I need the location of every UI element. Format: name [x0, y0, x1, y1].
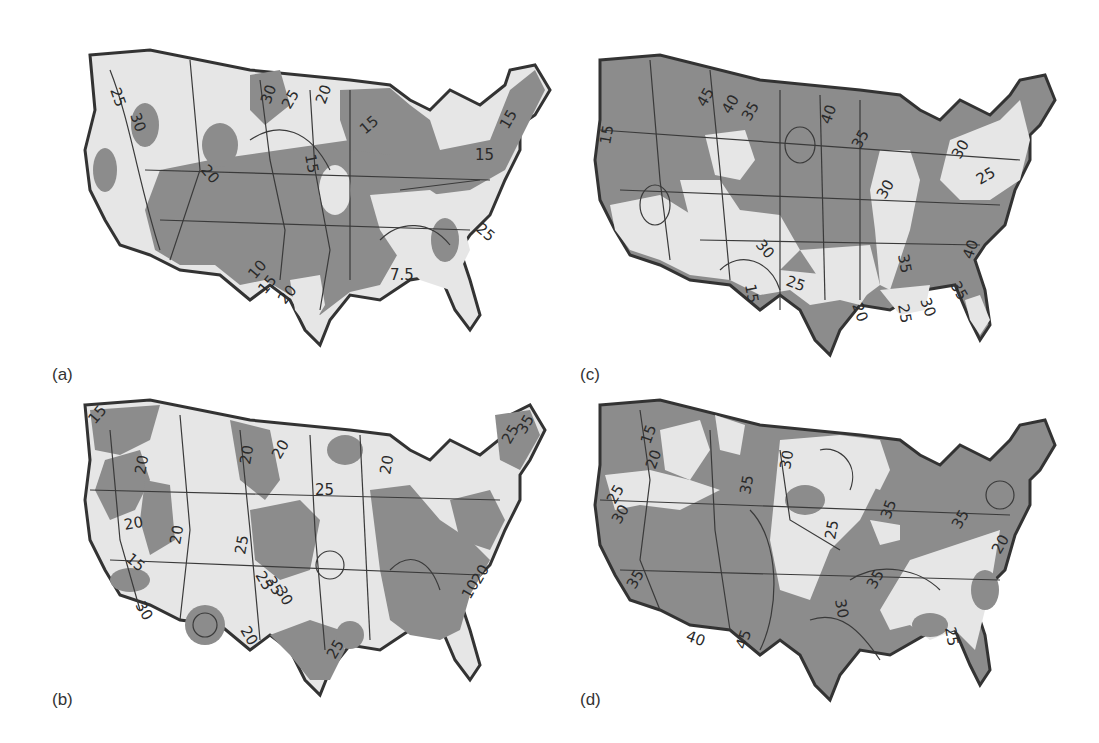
- contour-label: 20: [236, 444, 257, 466]
- contour-label: 20: [123, 513, 145, 534]
- us-contour-map-d: 15 20 25 30 35 35 30 35 25 30 35 35 40 4…: [580, 390, 1099, 730]
- panel-label-d: (d): [580, 690, 601, 710]
- contour-label: 20: [166, 524, 187, 546]
- contour-label: 25: [231, 534, 252, 556]
- dark-region: [93, 148, 117, 192]
- us-contour-map-a: 25 30 30 25 20 20 15 15 15 10 15 20 25 1…: [50, 30, 580, 390]
- light-region: [319, 165, 351, 215]
- dark-region: [971, 570, 999, 610]
- contour-label: 25: [821, 519, 842, 541]
- dark-region: [202, 123, 238, 167]
- map-panel-d: 15 20 25 30 35 35 30 35 25 30 35 35 40 4…: [580, 390, 1099, 743]
- dark-region: [185, 605, 225, 645]
- dark-region: [327, 435, 363, 465]
- contour-label: 40: [684, 627, 708, 650]
- contour-label: 20: [376, 454, 397, 476]
- us-contour-map-c: 15 45 40 35 40 35 30 30 25 30 25 15 20 3…: [580, 30, 1099, 390]
- contour-label: 35: [736, 474, 757, 496]
- contour-label: 15: [301, 153, 322, 175]
- map-panel-b: 15 20 20 20 20 25 30 20 15 10 25 25 35 3…: [50, 390, 580, 743]
- dark-region: [340, 88, 440, 155]
- contour-label: 15: [596, 124, 617, 146]
- map-panel-c: 15 45 40 35 40 35 30 30 25 30 25 15 20 3…: [580, 30, 1099, 390]
- contour-label: 20: [131, 454, 152, 476]
- map-panel-a: 25 30 30 25 20 20 15 15 15 10 15 20 25 1…: [50, 30, 580, 390]
- dark-region: [785, 485, 825, 515]
- dark-region: [110, 568, 150, 592]
- contour-label: 25: [315, 481, 334, 499]
- panel-label-c: (c): [580, 365, 600, 385]
- contour-label: 15: [741, 283, 762, 305]
- contour-label: 30: [776, 449, 797, 471]
- contour-label: 35: [894, 253, 915, 275]
- contour-label: 30: [831, 598, 852, 620]
- contour-label: 15: [475, 146, 494, 164]
- contour-label: 25: [941, 626, 962, 648]
- panel-label-b: (b): [52, 690, 73, 710]
- contour-label: 25: [894, 303, 915, 325]
- us-contour-map-b: 15 20 20 20 20 25 30 20 15 10 25 25 35 3…: [50, 390, 580, 730]
- contour-label: 7.5: [390, 266, 414, 284]
- panel-label-a: (a): [52, 365, 73, 385]
